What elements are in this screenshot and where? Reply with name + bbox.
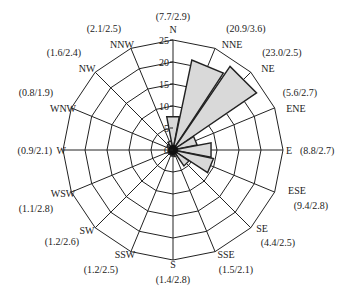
dir-label-n: N <box>169 24 176 35</box>
value-label-ese: (9.4/2.8) <box>294 200 328 212</box>
dir-label-wsw: WSW <box>51 188 76 199</box>
value-label-s: (1.4/2.8) <box>156 274 190 286</box>
dir-label-nw: NW <box>79 63 96 74</box>
value-label-nne: (20.9/3.6) <box>226 23 265 35</box>
dir-label-ssw: SSW <box>115 249 136 260</box>
dir-label-e: E <box>286 145 292 156</box>
value-label-nnw: (2.1/2.5) <box>87 23 121 35</box>
spoke-sw <box>95 150 173 228</box>
dir-label-s: S <box>170 259 176 270</box>
dir-label-ne: NE <box>261 63 274 74</box>
dir-label-sse: SSE <box>217 249 234 260</box>
value-label-ene: (5.6/2.7) <box>283 87 317 99</box>
value-label-wsw: (1.1/2.8) <box>19 203 53 215</box>
tick-20: 20 <box>159 57 169 68</box>
dir-label-se: SE <box>256 223 268 234</box>
tick-10: 10 <box>159 101 169 112</box>
value-label-wnw: (0.8/1.9) <box>19 87 53 99</box>
dir-label-ene: ENE <box>286 103 305 114</box>
dir-label-ese: ESE <box>288 185 306 196</box>
value-label-nw: (1.6/2.4) <box>47 47 81 59</box>
tick-0: 0 <box>164 145 169 156</box>
value-label-w: (0.9/2.1) <box>18 145 52 157</box>
value-label-se: (4.4/2.5) <box>261 237 295 249</box>
tick-25: 25 <box>159 35 169 46</box>
dir-label-nnw: NNW <box>110 39 134 50</box>
dir-label-wnw: WNW <box>50 103 77 114</box>
tick-15: 15 <box>159 79 169 90</box>
value-label-ssw: (1.2/2.5) <box>84 264 118 276</box>
value-label-sw: (1.2/2.6) <box>45 236 79 248</box>
value-label-n: (7.7/2.9) <box>156 11 190 23</box>
value-label-sse: (1.5/2.1) <box>219 264 253 276</box>
dir-label-sw: SW <box>80 225 96 236</box>
dir-label-w: W <box>57 145 67 156</box>
tick-5: 5 <box>164 123 169 134</box>
value-label-ne: (23.0/2.5) <box>262 47 301 59</box>
value-label-e: (8.8/2.7) <box>300 145 334 157</box>
frequency-polygon <box>167 60 257 173</box>
dir-label-nne: NNE <box>222 39 243 50</box>
wind-rose-chart: 0510152025 N(7.7/2.9)NNE(20.9/3.6)NE(23.… <box>0 0 344 302</box>
